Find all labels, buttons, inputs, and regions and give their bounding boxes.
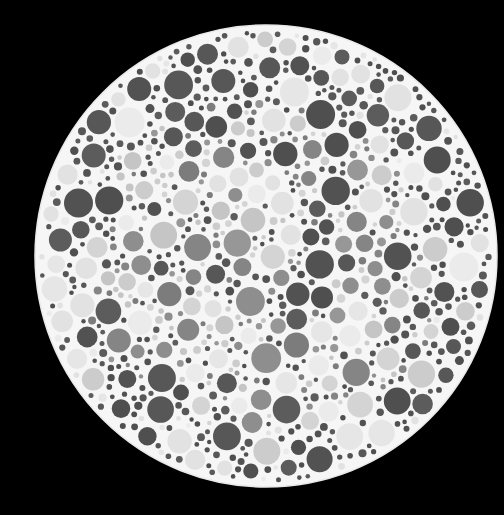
small-dot bbox=[148, 349, 153, 354]
small-dot bbox=[402, 276, 407, 281]
large-dot bbox=[157, 282, 181, 306]
small-dot bbox=[279, 435, 285, 441]
small-dot bbox=[261, 318, 266, 323]
large-dot bbox=[185, 450, 205, 470]
small-dot bbox=[284, 107, 290, 113]
small-dot bbox=[421, 192, 429, 200]
small-dot bbox=[122, 392, 127, 397]
small-dot bbox=[416, 94, 422, 100]
small-dot bbox=[370, 230, 376, 236]
small-dot bbox=[151, 95, 156, 100]
small-dot bbox=[221, 340, 228, 347]
small-dot bbox=[157, 254, 162, 259]
large-dot bbox=[173, 385, 189, 401]
large-dot bbox=[446, 339, 461, 354]
small-dot bbox=[391, 233, 397, 239]
small-dot bbox=[92, 358, 97, 363]
small-dot bbox=[264, 466, 271, 473]
small-dot bbox=[222, 258, 231, 267]
small-dot bbox=[235, 315, 240, 320]
small-dot bbox=[291, 188, 296, 193]
small-dot bbox=[78, 127, 86, 135]
small-dot bbox=[155, 112, 162, 119]
small-dot bbox=[431, 108, 436, 113]
large-dot bbox=[368, 420, 394, 446]
small-dot bbox=[142, 215, 147, 220]
small-dot bbox=[330, 344, 338, 352]
large-dot bbox=[342, 278, 358, 294]
small-dot bbox=[195, 421, 201, 427]
small-dot bbox=[100, 330, 105, 335]
small-dot bbox=[176, 218, 185, 227]
small-dot bbox=[270, 217, 278, 225]
small-dot bbox=[431, 265, 437, 271]
small-dot bbox=[110, 226, 116, 232]
small-dot bbox=[215, 37, 220, 42]
small-dot bbox=[356, 87, 364, 95]
large-dot bbox=[249, 163, 264, 178]
small-dot bbox=[89, 349, 97, 357]
small-dot bbox=[240, 446, 245, 451]
small-dot bbox=[305, 75, 312, 82]
large-dot bbox=[457, 189, 484, 216]
large-dot bbox=[428, 177, 443, 192]
small-dot bbox=[323, 39, 328, 44]
small-dot bbox=[380, 384, 385, 389]
small-dot bbox=[189, 417, 193, 421]
small-dot bbox=[436, 359, 442, 365]
small-dot bbox=[262, 235, 266, 239]
large-dot bbox=[112, 399, 131, 418]
large-dot bbox=[131, 345, 145, 359]
small-dot bbox=[273, 465, 278, 470]
small-dot bbox=[449, 238, 454, 243]
small-dot bbox=[455, 356, 464, 365]
large-dot bbox=[213, 147, 234, 168]
small-dot bbox=[476, 302, 482, 308]
small-dot bbox=[74, 158, 81, 165]
small-dot bbox=[260, 138, 268, 146]
small-dot bbox=[266, 422, 271, 427]
small-dot bbox=[212, 407, 217, 412]
small-dot bbox=[373, 298, 382, 307]
small-dot bbox=[185, 133, 191, 139]
small-dot bbox=[63, 271, 69, 277]
large-dot bbox=[213, 423, 241, 451]
small-dot bbox=[193, 65, 202, 74]
small-dot bbox=[200, 262, 204, 266]
small-dot bbox=[221, 406, 230, 415]
large-dot bbox=[72, 221, 90, 239]
small-dot bbox=[50, 304, 55, 309]
small-dot bbox=[238, 458, 245, 465]
small-dot bbox=[131, 423, 138, 430]
small-dot bbox=[309, 318, 314, 323]
small-dot bbox=[40, 273, 45, 278]
small-dot bbox=[244, 58, 253, 67]
large-dot bbox=[209, 349, 228, 368]
large-dot bbox=[209, 175, 226, 192]
large-dot bbox=[82, 368, 104, 390]
small-dot bbox=[74, 372, 80, 378]
small-dot bbox=[174, 49, 180, 55]
small-dot bbox=[224, 59, 229, 64]
large-dot bbox=[379, 215, 393, 229]
large-dot bbox=[408, 360, 435, 387]
small-dot bbox=[137, 337, 142, 342]
large-dot bbox=[306, 100, 335, 129]
small-dot bbox=[427, 288, 433, 294]
small-dot bbox=[227, 348, 232, 353]
small-dot bbox=[462, 294, 468, 300]
small-dot bbox=[288, 249, 296, 257]
large-dot bbox=[224, 229, 251, 256]
small-dot bbox=[445, 189, 452, 196]
small-dot bbox=[295, 424, 301, 430]
large-dot bbox=[308, 355, 329, 376]
small-dot bbox=[399, 119, 405, 125]
small-dot bbox=[94, 286, 102, 294]
small-dot bbox=[177, 360, 184, 367]
small-dot bbox=[128, 294, 132, 298]
small-dot bbox=[206, 381, 211, 386]
small-dot bbox=[383, 157, 388, 162]
small-dot bbox=[427, 318, 431, 322]
small-dot bbox=[146, 145, 153, 152]
small-dot bbox=[110, 394, 115, 399]
